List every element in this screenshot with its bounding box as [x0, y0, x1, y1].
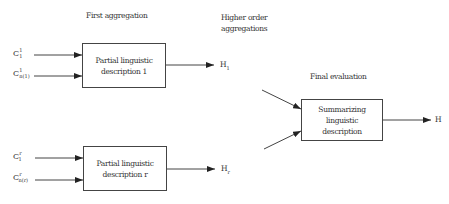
box-partial-description-1-label: Partial linguistic description 1: [95, 55, 152, 77]
output-h-final: H: [435, 115, 442, 124]
heading-final-evaluation: Final evaluation: [310, 72, 367, 81]
box-summarizing-description-label: Summarizing linguistic description: [318, 104, 365, 137]
heading-higher-order-1: Higher order: [221, 13, 267, 22]
output-hr: Hr: [221, 164, 230, 175]
box-partial-description-r-label: Partial linguistic description r: [96, 158, 153, 180]
input-c1-1: C11: [13, 48, 26, 59]
input-c1-n1: C1n(1): [13, 68, 33, 79]
arrow-diag-upper: [262, 90, 301, 109]
arrow-diag-lower: [264, 131, 301, 149]
box-summarizing-description: Summarizing linguistic description: [301, 99, 383, 141]
input-cr-nr: Crn(r): [13, 172, 31, 183]
heading-first-aggregation: First aggregation: [86, 11, 147, 20]
output-h1: H1: [220, 60, 230, 71]
box-partial-description-r: Partial linguistic description r: [83, 146, 167, 191]
input-cr-1: Cr1: [13, 151, 25, 162]
heading-higher-order-2: aggregations: [221, 24, 267, 33]
box-partial-description-1: Partial linguistic description 1: [82, 43, 166, 88]
